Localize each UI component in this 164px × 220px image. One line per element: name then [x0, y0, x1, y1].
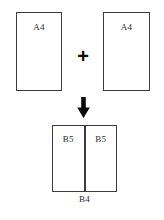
- sheet-b5-left-label: B5: [53, 134, 84, 144]
- arrow-down-icon: [77, 97, 90, 118]
- sheet-b5-right-label: B5: [86, 134, 117, 144]
- sheet-a4-left: A4: [16, 12, 62, 91]
- page-layout-diagram: A4 + A4 B5 B5 B4: [0, 0, 164, 220]
- sheet-a4-right: A4: [103, 12, 150, 91]
- sheet-a4-left-label: A4: [17, 22, 61, 32]
- plus-operator-icon: +: [74, 46, 92, 66]
- sheet-b4: B5 B5: [52, 125, 117, 192]
- sheet-a4-right-label: A4: [104, 22, 149, 32]
- sheet-b5-right: B5: [85, 126, 117, 191]
- caption-b4: B4: [52, 194, 117, 205]
- sheet-b5-left: B5: [53, 126, 85, 191]
